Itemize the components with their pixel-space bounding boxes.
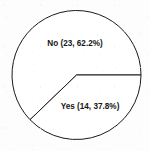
pie-slice-label-no: No (23, 62.2%) bbox=[47, 39, 103, 48]
pie-chart-svg: No (23, 62.2%) Yes (14, 37.8%) bbox=[0, 0, 149, 151]
pie-chart-figure: No (23, 62.2%) Yes (14, 37.8%) bbox=[0, 0, 149, 151]
pie-slice-label-yes: Yes (14, 37.8%) bbox=[61, 102, 120, 111]
